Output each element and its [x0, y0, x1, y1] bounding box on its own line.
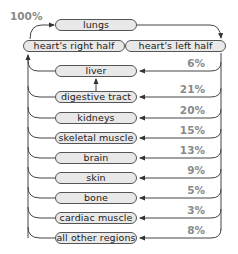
percent-brain: 13%: [165, 145, 205, 156]
organ-box-digestive-tract: digestive tract: [55, 91, 137, 103]
percent-all-other-regions: 8%: [165, 225, 205, 236]
organ-box-brain: brain: [55, 152, 137, 164]
percent-skin: 9%: [165, 165, 205, 176]
percent-cardiac-muscle: 3%: [165, 205, 205, 216]
blood-flow-diagram: 100% lungs heart's right half heart's le…: [0, 0, 238, 254]
organ-box-cardiac-muscle: cardiac muscle: [55, 212, 137, 224]
percent-bone: 5%: [165, 185, 205, 196]
organ-box-skeletal-muscle: skeletal muscle: [55, 132, 137, 144]
organ-box-bone: bone: [55, 192, 137, 204]
heart-left-half-box: heart's left half: [125, 40, 226, 52]
percent-liver: 6%: [165, 58, 205, 69]
organ-box-skin: skin: [55, 172, 137, 184]
organ-box-kidneys: kidneys: [55, 112, 137, 124]
percent-skeletal-muscle: 15%: [165, 125, 205, 136]
percent-kidneys: 20%: [165, 105, 205, 116]
total-flow-label: 100%: [10, 10, 42, 22]
organ-box-all-other-regions: all other regions: [55, 232, 137, 244]
lungs-box: lungs: [55, 19, 137, 31]
percent-digestive-tract: 21%: [165, 84, 205, 95]
heart-right-half-box: heart's right half: [23, 40, 125, 52]
organ-box-liver: liver: [55, 65, 137, 77]
